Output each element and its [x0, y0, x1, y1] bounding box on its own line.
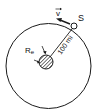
orbit-diagram: v S 100 mi Re: [0, 0, 97, 112]
velocity-arrow: [60, 20, 70, 24]
radius-arrowhead-top-icon: [43, 51, 47, 55]
velocity-label: v: [56, 9, 60, 18]
velocity-arrowhead-icon: [56, 18, 62, 22]
distance-label: 100 mi: [56, 34, 74, 56]
earth-icon: [39, 55, 53, 69]
earth-radius-label: Re: [25, 46, 35, 55]
satellite-label: S: [78, 13, 84, 23]
satellite-icon: [71, 23, 77, 29]
vector-bar-arrowhead-icon: [60, 8, 62, 10]
